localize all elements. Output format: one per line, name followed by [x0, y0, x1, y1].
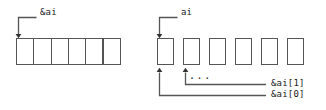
array-cell	[209, 38, 226, 65]
index-label-ai-1: &ai[1]	[271, 79, 305, 88]
array-pointer-diagram: &ai ai	[0, 0, 326, 110]
array-cell	[235, 38, 252, 65]
array-cell	[261, 38, 278, 65]
index-label-ai-0: &ai[0]	[271, 90, 305, 99]
array-cell	[157, 38, 174, 65]
array-cell	[183, 38, 200, 65]
ellipsis-label: ...	[189, 71, 212, 81]
array-cell	[287, 38, 304, 65]
